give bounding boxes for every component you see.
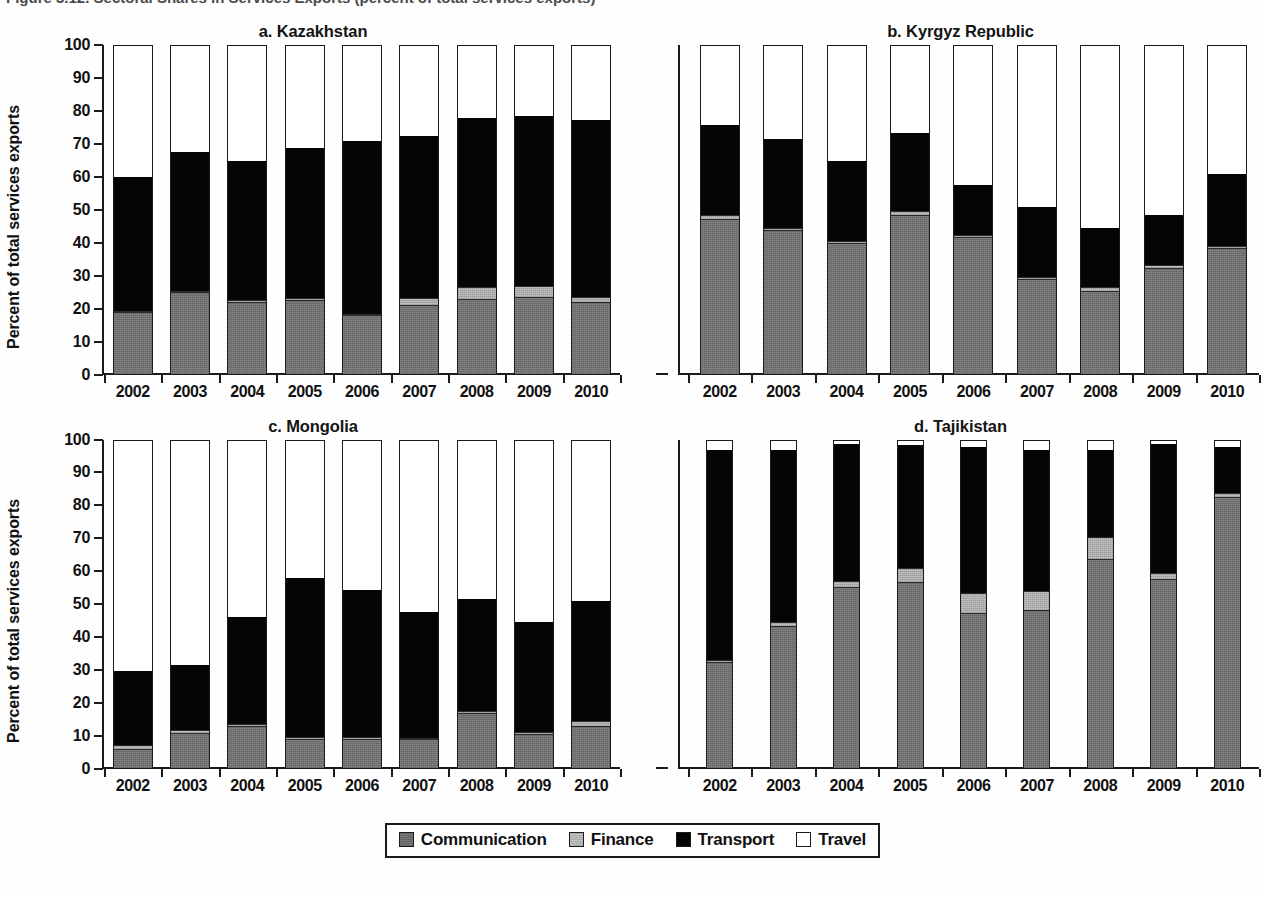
x-axis-tick bbox=[815, 769, 817, 777]
bar-segment-communication bbox=[1151, 580, 1176, 768]
stacked-bar[interactable] bbox=[514, 440, 554, 770]
stacked-bar[interactable] bbox=[342, 45, 382, 375]
bar-segment-transport bbox=[961, 447, 986, 593]
bar-segment-communication bbox=[898, 583, 923, 768]
stacked-bar[interactable] bbox=[1087, 440, 1114, 770]
stacked-bar[interactable] bbox=[227, 440, 267, 770]
stacked-bar[interactable] bbox=[833, 440, 860, 770]
legend: CommunicationFinanceTransportTravel bbox=[385, 823, 880, 858]
x-axis-tick bbox=[161, 375, 163, 383]
stacked-bar[interactable] bbox=[890, 45, 930, 375]
stacked-bar[interactable] bbox=[1023, 440, 1050, 770]
x-axis-tick-label: 2008 bbox=[1069, 777, 1132, 801]
stacked-bar[interactable] bbox=[113, 440, 153, 770]
bar-slot bbox=[878, 440, 941, 770]
x-axis-tick-label: 2003 bbox=[751, 777, 814, 801]
x-axis-tick bbox=[505, 375, 507, 383]
x-axis-tick-label: 2008 bbox=[448, 777, 505, 801]
stacked-bar[interactable] bbox=[399, 45, 439, 375]
x-axis-tick bbox=[688, 375, 690, 383]
bar-slot bbox=[104, 440, 161, 770]
bars-layer bbox=[104, 440, 620, 770]
bar-slot bbox=[815, 45, 878, 375]
bar-segment-communication bbox=[171, 293, 209, 373]
stacked-bar[interactable] bbox=[827, 45, 867, 375]
bar-slot bbox=[751, 440, 814, 770]
legend-item[interactable]: Travel bbox=[796, 830, 866, 850]
bar-segment-communication bbox=[1081, 292, 1119, 374]
x-axis-labels: 200220032004200520062007200820092010 bbox=[688, 777, 1259, 801]
bar-segment-travel bbox=[286, 441, 324, 579]
y-axis-tick-label: 90 bbox=[28, 463, 90, 481]
bar-segment-communication bbox=[1215, 498, 1240, 768]
stacked-bar[interactable] bbox=[770, 440, 797, 770]
stacked-bar[interactable] bbox=[457, 45, 497, 375]
bar-slot bbox=[942, 440, 1005, 770]
bar-segment-communication bbox=[228, 303, 266, 373]
y-axis-tick-label: 60 bbox=[28, 168, 90, 186]
y-axis-label-a: Percent of total services exports bbox=[0, 45, 28, 409]
x-axis-labels: 200220032004200520062007200820092010 bbox=[104, 383, 620, 407]
x-axis-tick-label: 2007 bbox=[1005, 383, 1068, 407]
stacked-bar[interactable] bbox=[571, 440, 611, 770]
stacked-bar[interactable] bbox=[399, 440, 439, 770]
y-axis-tick-label: 60 bbox=[28, 562, 90, 580]
y-axis-tick bbox=[94, 176, 103, 178]
x-axis-tick bbox=[751, 769, 753, 777]
legend-item[interactable]: Transport bbox=[676, 830, 775, 850]
stacked-bar[interactable] bbox=[1207, 45, 1247, 375]
legend-item[interactable]: Finance bbox=[569, 830, 654, 850]
x-axis-tick-label: 2007 bbox=[391, 777, 448, 801]
y-axis-tick-label: 70 bbox=[28, 529, 90, 547]
stacked-bar[interactable] bbox=[342, 440, 382, 770]
bar-segment-transport bbox=[771, 450, 796, 622]
y-axis-tick bbox=[94, 768, 103, 770]
x-axis-tick-label: 2005 bbox=[878, 777, 941, 801]
bar-segment-travel bbox=[828, 46, 866, 161]
bar-segment-transport bbox=[286, 148, 324, 299]
stacked-bar[interactable] bbox=[1017, 45, 1057, 375]
y-axis-spacer-d bbox=[626, 440, 654, 804]
bar-slot bbox=[1196, 440, 1259, 770]
bar-slot bbox=[1069, 440, 1132, 770]
y-axis-tick bbox=[94, 374, 103, 376]
x-axis-tick-label: 2007 bbox=[1005, 777, 1068, 801]
y-axis-tick-label: 50 bbox=[28, 595, 90, 613]
stacked-bar[interactable] bbox=[960, 440, 987, 770]
stacked-bar[interactable] bbox=[897, 440, 924, 770]
stacked-bar[interactable] bbox=[706, 440, 733, 770]
stacked-bar[interactable] bbox=[285, 440, 325, 770]
bar-segment-transport bbox=[458, 118, 496, 287]
stacked-bar[interactable] bbox=[170, 45, 210, 375]
stacked-bar[interactable] bbox=[514, 45, 554, 375]
x-axis-tick-label: 2010 bbox=[563, 777, 620, 801]
x-axis-tick-label: 2004 bbox=[219, 777, 276, 801]
y-axis-tick-label: 0 bbox=[28, 366, 90, 384]
stacked-bar[interactable] bbox=[170, 440, 210, 770]
stacked-bar[interactable] bbox=[285, 45, 325, 375]
x-axis-tick-label: 2005 bbox=[878, 383, 941, 407]
y-axis-tick-label: 20 bbox=[28, 694, 90, 712]
stacked-bar[interactable] bbox=[113, 45, 153, 375]
bar-segment-travel bbox=[228, 46, 266, 161]
stacked-bar[interactable] bbox=[1214, 440, 1241, 770]
legend-item[interactable]: Communication bbox=[399, 830, 547, 850]
stacked-bar[interactable] bbox=[763, 45, 803, 375]
stacked-bar[interactable] bbox=[700, 45, 740, 375]
y-axis-label-c: Percent of total services exports bbox=[0, 440, 28, 804]
bar-segment-transport bbox=[828, 161, 866, 241]
stacked-bar[interactable] bbox=[953, 45, 993, 375]
x-axis-tick bbox=[333, 769, 335, 777]
x-axis-tick-label: 2009 bbox=[1132, 383, 1195, 407]
stacked-bar[interactable] bbox=[1144, 45, 1184, 375]
stacked-bar[interactable] bbox=[457, 440, 497, 770]
stacked-bar[interactable] bbox=[571, 45, 611, 375]
stacked-bar[interactable] bbox=[1150, 440, 1177, 770]
bars-layer bbox=[688, 440, 1259, 770]
panel-kyrgyz-republic: b. Kyrgyz Republic 200220032004200520062… bbox=[626, 16, 1265, 411]
stacked-bar[interactable] bbox=[227, 45, 267, 375]
stacked-bar[interactable] bbox=[1080, 45, 1120, 375]
x-axis-tick-label: 2010 bbox=[1196, 777, 1259, 801]
plot-area-d: 200220032004200520062007200820092010 bbox=[654, 440, 1265, 804]
x-axis-tick-label: 2006 bbox=[333, 777, 390, 801]
